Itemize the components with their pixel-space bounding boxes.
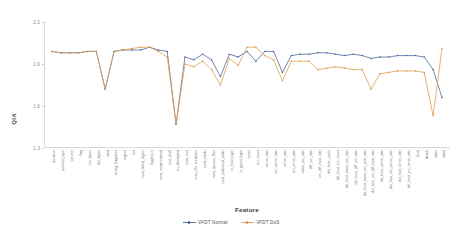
x-tick-label: attack [426, 150, 430, 159]
data-point [361, 69, 363, 71]
data-point [273, 59, 275, 61]
data-point [291, 55, 293, 57]
data-point [370, 88, 372, 90]
x-tick-label: num_outbound_cmds [222, 150, 226, 184]
legend-swatch-dos [241, 221, 254, 225]
x-tick-label: count [248, 150, 252, 159]
x-tick-label: dst_host_srv_count [337, 150, 341, 180]
data-point [291, 60, 293, 62]
data-point [308, 60, 310, 62]
data-point [122, 49, 124, 51]
x-tick-label: dst_host_srv_rerror_rate [408, 150, 412, 188]
x-tick-label: diff_srv_rate [310, 150, 314, 169]
series-line-dos [52, 47, 442, 124]
data-point [424, 72, 426, 74]
x-tick-label: num_compromised [160, 150, 164, 180]
data-point [441, 97, 443, 99]
y-tick-label: 2.2 [33, 20, 40, 25]
data-point [273, 51, 275, 53]
x-tick-label: class [435, 150, 439, 158]
y-axis-title: QIA [11, 113, 17, 125]
x-tick-label: root_shell [169, 150, 173, 165]
x-tick-label: wrong_fragment [115, 150, 119, 175]
legend-swatch-normal [183, 221, 196, 225]
x-tick-label: dst_host_same_src_port_rate [364, 150, 368, 196]
data-point [237, 56, 239, 58]
x-tick-label: logged_in [151, 150, 155, 165]
data-point [184, 56, 186, 58]
data-point [397, 70, 399, 72]
data-point [140, 49, 142, 51]
data-point [202, 60, 204, 62]
data-point [335, 66, 337, 68]
x-tick-label: service [71, 150, 75, 161]
data-point [361, 55, 363, 57]
plot-area: 2.21.91.61.3 [44, 22, 450, 148]
x-tick-label: dst_host_srv_serror_rate [390, 150, 394, 189]
chart-legend: VFDT Normal VFDT DoS [0, 220, 462, 225]
data-point [166, 51, 168, 53]
x-tick-label: srv_count [257, 150, 261, 165]
x-tick-label: dst_host_count [328, 150, 332, 174]
x-axis-title: Feature [44, 206, 450, 213]
data-point [220, 76, 222, 78]
y-tick-label: 1.9 [33, 62, 40, 67]
x-tick-label: num_access_files [213, 150, 217, 178]
y-tick-mark [42, 148, 44, 149]
data-point [317, 69, 319, 71]
x-tick-label: land [107, 150, 111, 157]
x-tick-label: srv_rerror_rate [293, 150, 297, 173]
data-point [193, 59, 195, 61]
x-tick-label: dst_host_diff_srv_rate [355, 150, 359, 184]
x-tick-label: num_failed_logins [142, 150, 146, 178]
series-line-normal [52, 47, 442, 124]
data-point [158, 49, 160, 51]
data-point [353, 69, 355, 71]
top-margin [0, 0, 462, 10]
y-tick-label: 1.6 [33, 104, 40, 109]
data-point [299, 53, 301, 55]
x-tick-label: serror_rate [266, 150, 270, 167]
data-point [229, 58, 231, 60]
data-point [388, 56, 390, 58]
data-point [282, 80, 284, 82]
data-point [282, 72, 284, 74]
data-point [379, 73, 381, 75]
data-point [353, 53, 355, 55]
x-tick-label: duration [53, 150, 57, 163]
data-point [432, 69, 434, 71]
x-tick-label: same_srv_rate [302, 150, 306, 173]
data-point [406, 70, 408, 72]
data-point [370, 58, 372, 60]
data-point [335, 53, 337, 55]
data-point [415, 55, 417, 57]
data-point [344, 67, 346, 69]
x-tick-label: num_shells [204, 150, 208, 168]
x-tick-label: su_attempted [177, 150, 181, 171]
data-point [388, 72, 390, 74]
data-point [113, 51, 115, 53]
x-tick-label: dst_host_rerror_rate [399, 150, 403, 182]
x-tick-label: rerror_rate [284, 150, 288, 167]
data-point [131, 49, 133, 51]
data-point [255, 60, 256, 62]
data-point [78, 52, 80, 54]
data-point [220, 84, 222, 86]
data-point [140, 46, 142, 48]
legend-item-vfdt-normal[interactable]: VFDT Normal [183, 220, 228, 225]
legend-item-vfdt-dos[interactable]: VFDT DoS [241, 220, 280, 225]
x-tick-label: is_guest_login [240, 150, 244, 172]
data-point [415, 70, 417, 72]
data-point [211, 69, 213, 71]
data-point [87, 51, 89, 53]
data-point [69, 52, 71, 54]
data-point [246, 46, 248, 48]
x-tick-label: level [417, 150, 421, 157]
data-point [60, 52, 62, 54]
data-point [175, 123, 177, 125]
data-point [264, 55, 266, 57]
data-point [326, 52, 328, 54]
data-point [51, 51, 53, 53]
data-point [104, 88, 106, 90]
legend-label-vfdt-normal: VFDT Normal [198, 220, 228, 225]
